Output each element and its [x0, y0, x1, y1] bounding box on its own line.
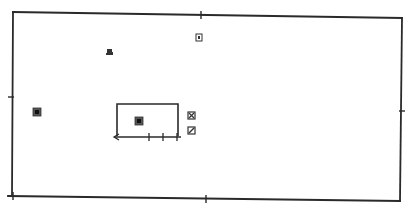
symbol-figure-icon — [106, 49, 113, 55]
symbol-square-outline-icon — [196, 34, 202, 41]
symbol-square-cross-icon — [188, 112, 195, 119]
frame-bottom — [8, 196, 400, 201]
frame-left — [12, 12, 13, 196]
outer-frame — [8, 12, 402, 201]
frame-top — [13, 12, 402, 18]
midpoint-ticks — [8, 11, 405, 203]
symbol-square-filled-center-icon — [135, 117, 143, 125]
dimension-line — [114, 133, 181, 141]
frame-right — [400, 18, 402, 201]
symbol-square-filled-left-icon — [33, 108, 41, 116]
symbol-square-slash-icon — [188, 127, 195, 134]
inner-room — [117, 104, 178, 136]
floor-plan-diagram — [0, 0, 410, 213]
